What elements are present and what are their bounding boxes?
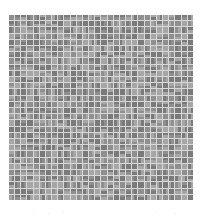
mosaic-cell — [83, 27, 88, 32]
mosaic-cell — [114, 40, 119, 45]
mosaic-cell — [145, 58, 150, 63]
mosaic-cell — [21, 15, 26, 20]
mosaic-cell — [27, 83, 32, 88]
mosaic-cell — [151, 83, 156, 88]
mosaic-cell — [52, 108, 57, 113]
mosaic-cell — [77, 151, 82, 156]
mosaic-cell — [21, 102, 26, 107]
mosaic-cell — [114, 120, 119, 125]
mosaic-cell — [27, 40, 32, 45]
mosaic-cell — [114, 170, 119, 175]
mosaic-cell — [126, 52, 131, 57]
mosaic-cell — [126, 176, 131, 181]
mosaic-cell — [77, 195, 82, 200]
mosaic-cell — [77, 164, 82, 169]
mosaic-cell — [52, 21, 57, 26]
mosaic-cell — [77, 158, 82, 163]
mosaic-cell — [71, 145, 76, 150]
mosaic-cell — [108, 182, 113, 187]
mosaic-cell — [83, 176, 88, 181]
mosaic-cell — [71, 127, 76, 132]
mosaic-cell — [188, 108, 193, 113]
mosaic-cell — [58, 182, 63, 187]
mosaic-cell — [157, 27, 162, 32]
mosaic-cell — [64, 58, 69, 63]
mosaic-cell — [83, 108, 88, 113]
mosaic-cell — [71, 21, 76, 26]
mosaic-cell — [169, 108, 174, 113]
mosaic-cell — [114, 151, 119, 156]
mosaic-cell — [58, 170, 63, 175]
mosaic-cell — [126, 65, 131, 70]
mosaic-cell — [52, 83, 57, 88]
mosaic-cell — [175, 77, 180, 82]
mosaic-cell — [89, 164, 94, 169]
mosaic-cell — [58, 21, 63, 26]
mosaic-cell — [40, 58, 45, 63]
mosaic-cell — [132, 170, 137, 175]
mosaic-cell — [151, 114, 156, 119]
mosaic-cell — [9, 46, 14, 51]
mosaic-cell — [182, 89, 187, 94]
mosaic-cell — [182, 151, 187, 156]
mosaic-cell — [188, 34, 193, 39]
mosaic-cell — [77, 127, 82, 132]
mosaic-cell — [27, 46, 32, 51]
mosaic-cell — [95, 139, 100, 144]
mosaic-cell — [175, 71, 180, 76]
mosaic-cell — [83, 46, 88, 51]
mosaic-cell — [83, 164, 88, 169]
mosaic-cell — [95, 52, 100, 57]
mosaic-cell — [157, 120, 162, 125]
mosaic-cell — [126, 127, 131, 132]
mosaic-cell — [9, 195, 14, 200]
mosaic-cell — [101, 151, 106, 156]
mosaic-cell — [101, 96, 106, 101]
mosaic-cell — [126, 102, 131, 107]
mosaic-cell — [83, 34, 88, 39]
mosaic-cell — [46, 189, 51, 194]
mosaic-cell — [34, 127, 39, 132]
mosaic-cell — [145, 151, 150, 156]
mosaic-cell — [64, 71, 69, 76]
mosaic-cell — [101, 176, 106, 181]
mosaic-cell — [120, 164, 125, 169]
mosaic-cell — [95, 21, 100, 26]
mosaic-cell — [27, 164, 32, 169]
mosaic-cell — [175, 170, 180, 175]
mosaic-cell — [114, 52, 119, 57]
mosaic-cell — [40, 40, 45, 45]
mosaic-cell — [9, 21, 14, 26]
mosaic-cell — [58, 114, 63, 119]
mosaic-cell — [77, 176, 82, 181]
mosaic-cell — [9, 108, 14, 113]
mosaic-cell — [27, 145, 32, 150]
mosaic-cell — [21, 127, 26, 132]
mosaic-cell — [52, 182, 57, 187]
mosaic-cell — [27, 96, 32, 101]
mosaic-cell — [126, 151, 131, 156]
mosaic-cell — [145, 40, 150, 45]
mosaic-cell — [27, 182, 32, 187]
mosaic-cell — [145, 127, 150, 132]
mosaic-cell — [132, 158, 137, 163]
mosaic-cell — [182, 65, 187, 70]
mosaic-cell — [157, 158, 162, 163]
mosaic-cell — [169, 77, 174, 82]
mosaic-cell — [71, 139, 76, 144]
speck — [175, 213, 176, 214]
mosaic-cell — [9, 170, 14, 175]
mosaic-cell — [34, 21, 39, 26]
mosaic-cell — [9, 182, 14, 187]
mosaic-cell — [157, 89, 162, 94]
mosaic-cell — [114, 127, 119, 132]
mosaic-cell — [182, 176, 187, 181]
mosaic-cell — [21, 83, 26, 88]
mosaic-cell — [182, 133, 187, 138]
mosaic-cell — [175, 52, 180, 57]
mosaic-cell — [145, 71, 150, 76]
mosaic-cell — [40, 158, 45, 163]
mosaic-cell — [77, 170, 82, 175]
mosaic-cell — [169, 133, 174, 138]
mosaic-cell — [64, 120, 69, 125]
